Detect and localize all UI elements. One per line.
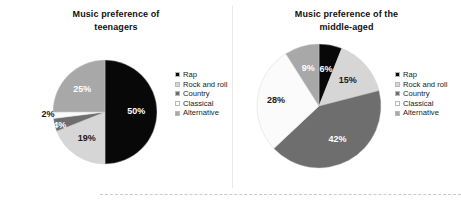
pie-label-rap: 50%: [127, 106, 145, 116]
legend-swatch-icon: [175, 101, 180, 106]
pie-label-alternative: 9%: [302, 63, 315, 73]
legend-item-alternative[interactable]: Alternative: [395, 108, 459, 118]
legend-item-rock-and-roll[interactable]: Rock and roll: [395, 80, 459, 90]
legend-swatch-icon: [395, 82, 400, 87]
pie-chart-figure: Music preference of teenagers 50%19%4%2%…: [0, 0, 461, 202]
pie-label-classical: 28%: [267, 95, 285, 105]
legend-item-rap[interactable]: Rap: [395, 70, 459, 80]
legend-item-label: Classical: [183, 99, 233, 109]
chart-panel-middle-aged: Music preference of the middle-aged 6%15…: [232, 0, 461, 192]
legend-item-label: Alternative: [183, 108, 233, 118]
legend-item-label: Rock and roll: [183, 80, 233, 90]
legend-item-label: Rap: [183, 70, 233, 80]
pie-label-country: 4%: [53, 120, 66, 130]
legend-swatch-icon: [395, 101, 400, 106]
bottom-dashed-rule: [100, 194, 461, 195]
legend-swatch-icon: [395, 72, 400, 77]
chart-panel-teenagers: Music preference of teenagers 50%19%4%2%…: [0, 0, 232, 192]
legend-middle-aged: RapRock and rollCountryClassicalAlternat…: [395, 70, 459, 118]
chart-title-teenagers-line2: teenagers: [94, 22, 137, 32]
pie-label-rock-and-roll: 15%: [339, 75, 357, 85]
pie-teenagers: 50%19%4%2%25%: [53, 60, 157, 164]
chart-title-middle-aged-line2: middle-aged: [319, 22, 373, 32]
legend-item-country[interactable]: Country: [175, 89, 233, 99]
legend-swatch-icon: [175, 82, 180, 87]
legend-item-label: Country: [183, 89, 233, 99]
legend-item-label: Alternative: [403, 108, 459, 118]
legend-item-label: Country: [403, 89, 459, 99]
pie-label-alternative: 25%: [73, 84, 91, 94]
pie-middle-aged-slices: [257, 44, 381, 168]
pie-middle-aged: 6%15%42%28%9%: [257, 44, 381, 168]
pie-label-rap: 6%: [319, 64, 332, 74]
legend-swatch-icon: [175, 111, 180, 116]
legend-item-classical[interactable]: Classical: [175, 99, 233, 109]
pie-label-rock-and-roll: 19%: [78, 133, 96, 143]
legend-swatch-icon: [175, 91, 180, 96]
legend-item-classical[interactable]: Classical: [395, 99, 459, 109]
legend-item-label: Classical: [403, 99, 459, 109]
pie-label-country: 42%: [329, 134, 347, 144]
pie-label-classical: 2%: [42, 109, 55, 119]
chart-title-teenagers: Music preference of teenagers: [0, 8, 232, 33]
legend-item-alternative[interactable]: Alternative: [175, 108, 233, 118]
legend-swatch-icon: [175, 72, 180, 77]
pie-middle-aged-svg: 6%15%42%28%9%: [257, 44, 381, 168]
legend-item-label: Rap: [403, 70, 459, 80]
legend-item-label: Rock and roll: [403, 80, 459, 90]
legend-item-rap[interactable]: Rap: [175, 70, 233, 80]
chart-title-teenagers-line1: Music preference of: [73, 9, 160, 19]
pie-teenagers-svg: 50%19%4%2%25%: [53, 60, 157, 164]
chart-title-middle-aged: Music preference of the middle-aged: [232, 8, 461, 33]
legend-swatch-icon: [395, 111, 400, 116]
legend-item-rock-and-roll[interactable]: Rock and roll: [175, 80, 233, 90]
legend-teenagers: RapRock and rollCountryClassicalAlternat…: [175, 70, 233, 118]
legend-swatch-icon: [395, 91, 400, 96]
chart-title-middle-aged-line1: Music preference of the: [295, 9, 398, 19]
legend-item-country[interactable]: Country: [395, 89, 459, 99]
